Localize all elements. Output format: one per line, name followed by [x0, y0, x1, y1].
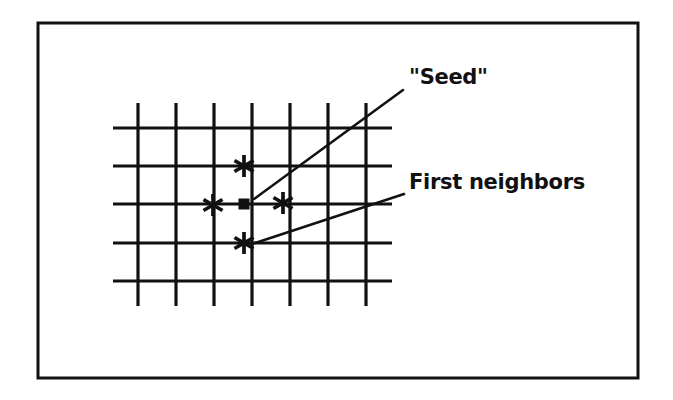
lattice-diagram-canvas: "Seed"First neighbors: [0, 0, 673, 400]
seed-marker: [239, 199, 250, 210]
figure-background: [0, 0, 673, 400]
first-neighbors-annotation-text: First neighbors: [409, 170, 585, 194]
seed-annotation-text: "Seed": [409, 65, 488, 89]
figure-root: "Seed"First neighbors: [0, 0, 673, 400]
